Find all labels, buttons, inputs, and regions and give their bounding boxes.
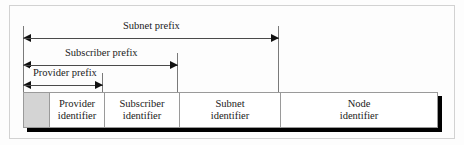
arrowhead-right-icon <box>95 81 103 89</box>
address-field-line1: Node <box>348 98 371 110</box>
address-field-line2: identifier <box>340 110 378 122</box>
guide-line-subscriber-prefix-end <box>177 53 178 92</box>
address-field-line2: identifier <box>211 110 249 122</box>
measure-label-provider-prefix: Provider prefix <box>30 67 100 78</box>
arrow-shaft <box>23 65 178 66</box>
address-bar-body: Provider identifier Subscriber identifie… <box>23 92 438 128</box>
address-field-line1: Provider <box>59 98 95 110</box>
arrowhead-right-icon <box>170 61 178 69</box>
address-field-provider-identifier: Provider identifier <box>49 93 104 127</box>
address-field-node-identifier: Node identifier <box>280 93 437 127</box>
measure-arrow-provider-prefix <box>23 80 103 91</box>
arrow-shaft <box>23 85 103 86</box>
arrow-shaft <box>23 38 279 39</box>
address-bar: Provider identifier Subscriber identifie… <box>23 92 438 128</box>
address-field-line2: identifier <box>58 110 96 122</box>
address-field-subscriber-identifier: Subscriber identifier <box>104 93 179 127</box>
address-format-figure: Subnet prefix Subscriber prefix Provider… <box>0 0 464 145</box>
measure-label-subscriber-prefix: Subscriber prefix <box>62 47 141 58</box>
address-field-line1: Subscriber <box>120 98 165 110</box>
measure-label-subnet-prefix: Subnet prefix <box>120 20 183 31</box>
arrowhead-right-icon <box>271 34 279 42</box>
address-field-line1: Subnet <box>215 98 244 110</box>
measure-arrow-subnet-prefix <box>23 33 279 44</box>
address-field-line2: identifier <box>123 110 161 122</box>
address-field-subnet-identifier: Subnet identifier <box>179 93 280 127</box>
address-field-reserved <box>24 93 49 127</box>
